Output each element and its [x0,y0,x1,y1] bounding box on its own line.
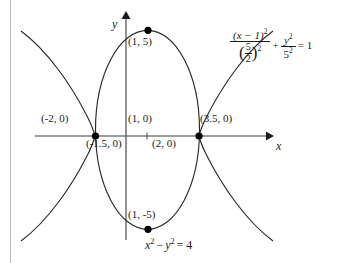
point-label-1-0: (1, 0) [128,113,152,125]
ellipse-denominator-one: (52)2 [230,42,270,64]
ellipse-denominator-two: 52 [281,47,296,60]
ellipse-fraction-two: y2 52 [281,33,296,60]
point-label-1-5: (1, 5) [128,36,152,48]
ellipse-equals-one: = 1 [298,40,312,52]
point-right-vertex [195,132,202,139]
x-axis-label: x [276,140,281,153]
hyperbola-term-x: x2 [145,238,154,252]
figure-canvas: (1, 5) (-2, 0) (1, 0) (3.5, 0) (-1.5, 0)… [0,0,340,263]
ellipse-equation: (x − 1)2 (52)2 + y2 52 = 1 [230,28,312,64]
point-top-vertex [144,27,151,34]
hyperbola-equation: x2 − y2 = 4 [145,238,192,252]
point-label-minus1point5-0: (-1.5, 0) [86,138,122,150]
ellipse-numerator-two: y2 [281,33,296,47]
point-label-1-minus5: (1, -5) [128,209,156,221]
hyperbola-equals-four: = 4 [177,239,193,252]
y-axis-label: y [112,18,117,31]
point-label-2-0: (2, 0) [152,138,176,150]
y-axis-arrowhead [122,11,131,19]
point-bottom-vertex [144,226,151,233]
ellipse-curve [96,30,200,229]
ellipse-numerator-one: (x − 1)2 [230,28,270,42]
x-axis-arrowhead [266,132,274,141]
point-label-3point5-0: (3.5, 0) [200,113,232,125]
ellipse-fraction-one: (x − 1)2 (52)2 [230,28,270,64]
point-label-minus2-0: (-2, 0) [41,113,69,125]
hyperbola-minus-sign: − [156,239,163,252]
ellipse-plus-sign: + [272,40,278,52]
hyperbola-term-y: y2 [165,238,174,252]
